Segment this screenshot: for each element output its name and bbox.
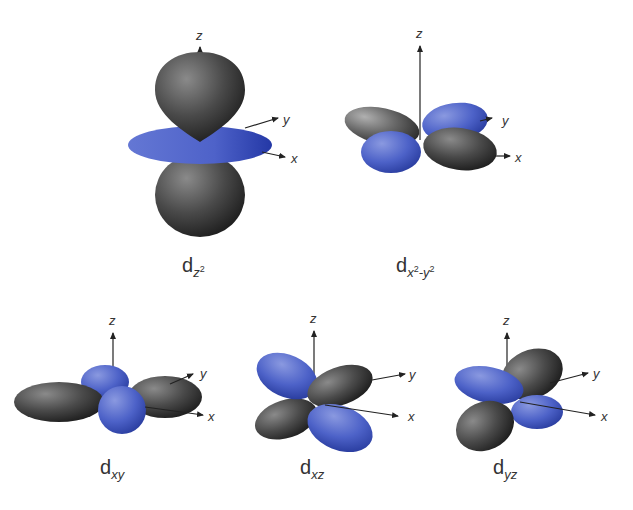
y-axis-label: y	[592, 366, 601, 381]
orbital-dyz: z y x	[448, 313, 608, 460]
front-blue-lobe	[361, 131, 421, 173]
orbital-dxz: z y x	[249, 311, 417, 461]
x-axis	[262, 152, 285, 157]
y-axis-label: y	[282, 112, 291, 127]
y-axis	[245, 118, 278, 128]
back-lower-blue-lobe	[511, 395, 563, 429]
label-dxy: dxy	[100, 456, 124, 479]
label-dyz: dyz	[493, 456, 517, 479]
x-axis-label: x	[290, 151, 298, 166]
x-axis-label: x	[207, 409, 215, 424]
left-gray-lobe	[14, 382, 104, 422]
z-axis-label: z	[415, 26, 423, 41]
d-orbitals-figure: z y x z y x z	[0, 0, 633, 510]
x-axis-label: x	[407, 409, 415, 424]
z-axis-label: z	[502, 313, 510, 328]
front-blue-lobe	[98, 386, 146, 434]
x-axis-label: x	[600, 409, 608, 424]
y-axis-label: y	[199, 366, 208, 381]
label-dz2: dz2	[182, 254, 205, 277]
z-axis-label: z	[108, 313, 116, 328]
lower-gray-lobe	[155, 153, 245, 237]
x-axis-label: x	[514, 150, 522, 165]
orbital-dxy: z y x	[14, 313, 215, 434]
label-dxz: dxz	[300, 456, 324, 479]
label-dx2-y2: dx2-y2	[396, 254, 435, 277]
y-axis-label: y	[408, 367, 417, 382]
orbital-dz2: z y x	[128, 28, 298, 237]
orbital-dx2-y2: z y x	[341, 26, 522, 175]
y-axis-label: y	[501, 113, 510, 128]
y-axis	[372, 374, 405, 380]
z-axis-label: z	[309, 311, 317, 326]
z-axis-label: z	[195, 28, 203, 43]
